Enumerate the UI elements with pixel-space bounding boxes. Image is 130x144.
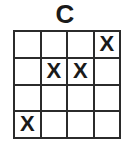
grid-cell-r2c3[interactable]: X <box>68 59 95 86</box>
figure-title: C <box>0 0 130 29</box>
grid-cell-r3c3[interactable] <box>68 86 95 113</box>
grid-cell-r2c1[interactable] <box>15 59 42 86</box>
grid-cell-r3c4[interactable] <box>95 86 122 113</box>
grid-cell-r1c4[interactable]: X <box>95 32 122 59</box>
shape-grid: X X X X <box>13 30 121 139</box>
grid-cell-r4c1[interactable]: X <box>15 112 42 139</box>
grid-cell-r3c2[interactable] <box>42 86 69 113</box>
cell-mark: X <box>99 33 114 55</box>
grid-cell-r2c4[interactable] <box>95 59 122 86</box>
grid-cell-r4c4[interactable] <box>95 112 122 139</box>
cell-mark: X <box>20 113 35 135</box>
grid-cell-r1c3[interactable] <box>68 32 95 59</box>
grid-cell-r1c2[interactable] <box>42 32 69 59</box>
grid-cell-r4c3[interactable] <box>68 112 95 139</box>
grid-cell-r2c2[interactable]: X <box>42 59 69 86</box>
cell-mark: X <box>73 60 88 82</box>
grid-cell-r3c1[interactable] <box>15 86 42 113</box>
cell-mark: X <box>46 60 61 82</box>
grid-cell-r4c2[interactable] <box>42 112 69 139</box>
grid-figure: C X X X X <box>0 0 130 144</box>
grid-cell-r1c1[interactable] <box>15 32 42 59</box>
